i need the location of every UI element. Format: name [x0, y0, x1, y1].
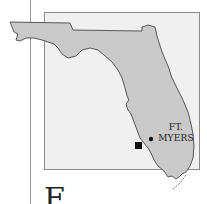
drop-cap-letter: F	[44, 184, 65, 204]
city-dot-ft-myers	[149, 137, 153, 141]
city-label-ft-myers: FT. MYERS	[156, 122, 196, 144]
florida-map	[0, 0, 207, 204]
site-square-marker	[135, 142, 142, 149]
florida-outline	[10, 22, 194, 179]
city-label-line1: FT.	[156, 122, 196, 133]
city-label-line2: MYERS	[156, 133, 196, 144]
